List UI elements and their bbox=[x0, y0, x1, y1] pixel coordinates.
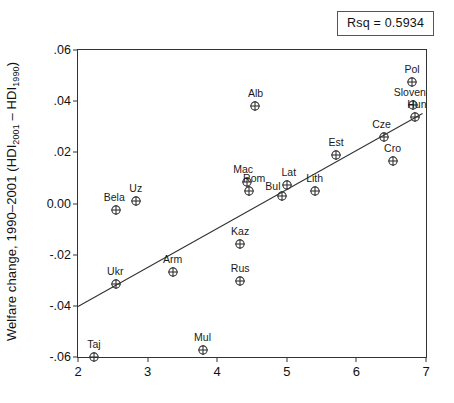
data-point-marker bbox=[244, 185, 255, 196]
y-axis-title: Welfare change, 1990–2001 (HDI2001 – HDI… bbox=[0, 0, 22, 403]
data-point-label: Uz bbox=[129, 183, 142, 194]
data-point-marker bbox=[130, 196, 141, 207]
data-point-marker bbox=[197, 345, 208, 356]
data-point-marker bbox=[250, 100, 261, 111]
data-point-marker bbox=[167, 267, 178, 278]
x-axis-tick-mark bbox=[356, 357, 357, 362]
y-axis-tick-mark bbox=[73, 101, 78, 102]
data-point-marker bbox=[281, 179, 292, 190]
data-point-marker bbox=[309, 186, 320, 197]
data-point-label: Lat bbox=[281, 166, 296, 177]
data-point-label: Bela bbox=[104, 191, 125, 202]
rsq-annotation-box: Rsq = 0.5934 bbox=[337, 11, 434, 36]
y-axis-tick-mark bbox=[73, 305, 78, 306]
x-axis-tick-mark bbox=[426, 357, 427, 362]
x-axis-tick-mark bbox=[147, 357, 148, 362]
scatter-plot-area: TajBelaUkrUzArmMulKazRusMacRomAlbBulLatL… bbox=[77, 49, 427, 358]
data-point-label: Alb bbox=[248, 87, 263, 98]
data-point-label: Kaz bbox=[231, 225, 249, 236]
y-axis-tick-mark bbox=[73, 152, 78, 153]
rsq-label: Rsq = 0.5934 bbox=[347, 16, 424, 30]
y-axis-tick-mark bbox=[73, 50, 78, 51]
x-axis-tick-mark bbox=[78, 357, 79, 362]
data-point-marker bbox=[235, 276, 246, 287]
data-point-label: Ukr bbox=[107, 265, 123, 276]
y-axis-title-text: Welfare change, 1990–2001 (HDI2001 – HDI… bbox=[4, 62, 19, 341]
data-point-label: Pol bbox=[404, 64, 419, 75]
x-axis-tick-mark bbox=[286, 357, 287, 362]
plot-canvas: TajBelaUkrUzArmMulKazRusMacRomAlbBulLatL… bbox=[78, 50, 426, 357]
data-point-marker bbox=[111, 278, 122, 289]
data-point-marker bbox=[89, 352, 100, 363]
data-point-marker bbox=[331, 149, 342, 160]
data-point-label: Rus bbox=[231, 263, 250, 274]
data-point-label: Rom bbox=[243, 172, 265, 183]
data-point-marker bbox=[235, 238, 246, 249]
data-point-label: Taj bbox=[87, 339, 100, 350]
data-point-marker bbox=[111, 204, 122, 215]
data-point-marker bbox=[387, 155, 398, 166]
data-point-label: Cro bbox=[384, 142, 401, 153]
data-point-marker bbox=[409, 111, 420, 122]
data-point-label: Sloven bbox=[394, 87, 426, 98]
data-point-label: Cze bbox=[372, 119, 391, 130]
x-axis-tick-mark bbox=[217, 357, 218, 362]
data-point-label: Bul bbox=[265, 181, 280, 192]
data-point-label: Lith bbox=[306, 173, 323, 184]
y-axis-tick-mark bbox=[73, 203, 78, 204]
y-axis-tick-mark bbox=[73, 254, 78, 255]
data-point-label: Mul bbox=[194, 332, 211, 343]
data-point-marker bbox=[276, 191, 287, 202]
data-point-label: Hun bbox=[407, 98, 426, 109]
data-point-label: Arm bbox=[163, 254, 182, 265]
data-point-label: Est bbox=[329, 136, 344, 147]
